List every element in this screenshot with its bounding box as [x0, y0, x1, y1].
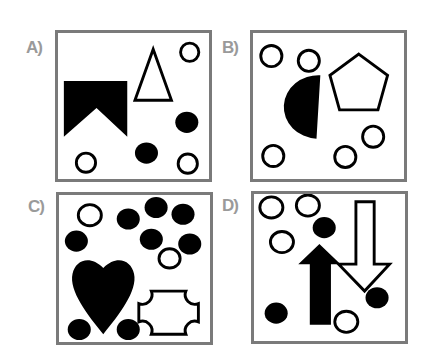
option-c-panel[interactable] — [56, 192, 213, 345]
filled-circle-icon — [313, 217, 336, 238]
filled-circle-icon — [175, 112, 198, 133]
outline-circle-icon — [263, 145, 284, 166]
option-d-panel[interactable] — [251, 191, 408, 344]
outline-circle-icon — [296, 195, 319, 216]
filled-half-circle-icon — [284, 75, 321, 138]
filled-circle-icon — [135, 143, 158, 164]
outline-circle-icon — [261, 45, 282, 66]
outline-circle-icon — [178, 154, 197, 173]
outline-circle-icon — [363, 126, 384, 147]
outline-circle-icon — [181, 43, 199, 61]
filled-circle-icon — [366, 287, 389, 308]
filled-circle-icon — [145, 197, 168, 218]
option-d-figure — [254, 194, 405, 341]
outline-circle-icon — [76, 153, 95, 172]
outline-circle-icon — [335, 311, 358, 332]
outline-circle-icon — [270, 231, 293, 252]
outline-circle-icon — [78, 205, 101, 226]
outline-circle-icon — [260, 197, 283, 218]
filled-circle-icon — [117, 319, 140, 340]
option-c-figure — [59, 195, 210, 342]
filled-up-arrow-icon — [298, 244, 340, 325]
filled-circle-icon — [265, 303, 288, 324]
outline-circle-icon — [159, 249, 180, 268]
filled-circle-icon — [65, 231, 88, 252]
option-d-label: D) — [222, 196, 238, 216]
option-b-figure — [253, 33, 404, 179]
option-b-panel[interactable] — [250, 30, 407, 182]
outline-notched-square-icon — [139, 291, 199, 334]
outline-pentagon-icon — [330, 54, 388, 110]
filled-circle-icon — [117, 208, 140, 229]
option-a-label: A) — [26, 38, 42, 58]
option-a-panel[interactable] — [55, 30, 212, 182]
outline-down-arrow-icon — [339, 202, 390, 291]
option-c-label: C) — [28, 197, 44, 217]
filled-circle-icon — [68, 319, 91, 340]
filled-circle-icon — [178, 233, 201, 254]
filled-circle-icon — [140, 229, 163, 250]
filled-notched-rectangle-icon — [64, 81, 127, 137]
outline-circle-icon — [335, 146, 356, 167]
filled-circle-icon — [171, 204, 194, 225]
outline-triangle-icon — [135, 49, 172, 100]
outline-circle-icon — [298, 50, 319, 71]
option-b-label: B) — [222, 38, 238, 58]
option-a-figure — [58, 33, 209, 179]
